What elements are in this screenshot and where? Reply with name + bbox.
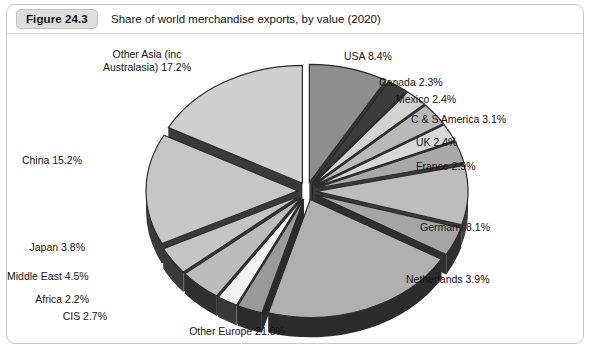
pie-slice-label: Other Europe 21.0% (152, 325, 322, 338)
pie-chart: USA 8.4%Canada 2.3%Mexico 2.4%C & S Amer… (7, 34, 583, 343)
figure-number-badge: Figure 24.3 (16, 9, 98, 29)
pie-slice-label: Netherlands 3.9% (406, 273, 489, 286)
pie-slice-label: Canada 2.3% (379, 76, 443, 89)
figure-card: Figure 24.3 Share of world merchandise e… (6, 4, 584, 344)
pie-slice-label: Germany 8.1% (420, 221, 490, 234)
pie-slice-label: C & S America 3.1% (411, 113, 506, 126)
pie-slice-label: China 15.2% (7, 154, 82, 167)
pie-slice-label: Japan 3.8% (7, 241, 85, 254)
pie-chart-svg (7, 34, 583, 343)
pie-slice-label: UK 2.4% (416, 136, 457, 149)
pie-slice-label: CIS 2.7% (7, 310, 107, 323)
pie-slice-label: Mexico 2.4% (396, 93, 456, 106)
pie-slice-label: Middle East 4.5% (7, 270, 73, 283)
pie-slice-label: Other Asia (inc Australasia) 17.2% (62, 48, 232, 73)
figure-header: Figure 24.3 Share of world merchandise e… (7, 5, 583, 34)
figure-title: Share of world merchandise exports, by v… (111, 13, 381, 25)
pie-slice-label: Africa 2.2% (7, 293, 89, 306)
pie-slice-label: USA 8.4% (344, 50, 392, 63)
pie-slice-label: France 2.9% (416, 160, 476, 173)
